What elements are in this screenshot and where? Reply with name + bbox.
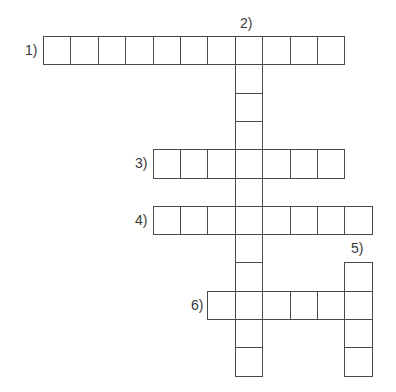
crossword-cell-r9-c11[interactable] [344, 291, 373, 320]
crossword-cell-r4-c6[interactable] [207, 149, 236, 179]
crossword-cell-r4-c10[interactable] [317, 149, 345, 179]
crossword-cell-r11-c7[interactable] [235, 347, 263, 377]
crossword-cell-r9-c10[interactable] [317, 291, 345, 320]
crossword-cell-r0-c8[interactable] [262, 36, 291, 65]
crossword-cell-r0-c6[interactable] [207, 36, 236, 65]
crossword-cell-r10-c11[interactable] [344, 319, 373, 348]
crossword-cell-r6-c4[interactable] [153, 206, 181, 235]
crossword-cell-r4-c5[interactable] [180, 149, 208, 179]
crossword-cell-r0-c1[interactable] [70, 36, 99, 65]
crossword-cell-r6-c6[interactable] [207, 206, 236, 235]
crossword-cell-r6-c9[interactable] [290, 206, 318, 235]
crossword-cell-r4-c8[interactable] [262, 149, 291, 179]
crossword-cell-r4-c9[interactable] [290, 149, 318, 179]
crossword-cell-r10-c7[interactable] [235, 319, 263, 348]
crossword-cell-r9-c8[interactable] [262, 291, 291, 320]
clue-number-5: 5) [351, 241, 363, 255]
crossword-cell-r11-c11[interactable] [344, 347, 373, 377]
crossword-cell-r8-c7[interactable] [235, 262, 263, 292]
crossword-cell-r0-c4[interactable] [153, 36, 181, 65]
clue-number-6: 6) [191, 298, 203, 312]
clue-number-4: 4) [135, 213, 147, 227]
clue-number-1: 1) [25, 43, 37, 57]
crossword-cell-r6-c10[interactable] [317, 206, 345, 235]
crossword-cell-r4-c7[interactable] [235, 149, 263, 179]
crossword-cell-r0-c5[interactable] [180, 36, 208, 65]
crossword-cell-r9-c6[interactable] [207, 291, 236, 320]
clue-number-3: 3) [135, 156, 147, 170]
crossword-cell-r0-c2[interactable] [98, 36, 126, 65]
crossword-cell-r4-c4[interactable] [153, 149, 181, 179]
crossword-grid: 1)2)3)4)5)6) [0, 0, 396, 392]
crossword-cell-r1-c7[interactable] [235, 64, 263, 94]
clue-number-2: 2) [240, 16, 252, 30]
crossword-cell-r2-c7[interactable] [235, 93, 263, 122]
crossword-cell-r6-c11[interactable] [344, 206, 373, 235]
crossword-cell-r9-c7[interactable] [235, 291, 263, 320]
crossword-cell-r0-c9[interactable] [290, 36, 318, 65]
crossword-cell-r6-c7[interactable] [235, 206, 263, 235]
crossword-cell-r6-c5[interactable] [180, 206, 208, 235]
crossword-cell-r3-c7[interactable] [235, 121, 263, 150]
crossword-cell-r0-c3[interactable] [125, 36, 154, 65]
crossword-cell-r7-c7[interactable] [235, 234, 263, 263]
crossword-cell-r5-c7[interactable] [235, 178, 263, 207]
crossword-cell-r0-c10[interactable] [317, 36, 345, 65]
crossword-cell-r0-c7[interactable] [235, 36, 263, 65]
crossword-cell-r0-c0[interactable] [43, 36, 71, 65]
crossword-cell-r8-c11[interactable] [344, 262, 373, 292]
crossword-cell-r6-c8[interactable] [262, 206, 291, 235]
crossword-cell-r9-c9[interactable] [290, 291, 318, 320]
